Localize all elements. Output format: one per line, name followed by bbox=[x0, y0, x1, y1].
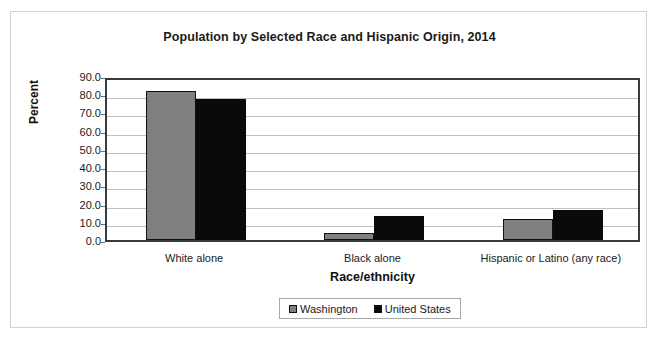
y-tick-label: 50.0 bbox=[59, 145, 101, 156]
y-tick-label: 90.0 bbox=[59, 72, 101, 83]
bar-washington[interactable] bbox=[324, 233, 374, 240]
bar-washington[interactable] bbox=[503, 219, 553, 240]
x-tick-label: White alone bbox=[105, 252, 283, 264]
chart-frame: Population by Selected Race and Hispanic… bbox=[10, 11, 647, 328]
legend-label: United States bbox=[385, 303, 451, 315]
chart-legend: WashingtonUnited States bbox=[279, 298, 461, 319]
plot-area bbox=[105, 78, 640, 242]
x-tick-label: Hispanic or Latino (any race) bbox=[462, 252, 640, 264]
x-tick-label: Black alone bbox=[283, 252, 461, 264]
y-tick-mark bbox=[101, 242, 105, 243]
legend-label: Washington bbox=[300, 303, 358, 315]
y-axis-ticks: 90.080.070.060.050.040.030.020.010.00.0 bbox=[51, 78, 101, 242]
black-square-icon bbox=[374, 305, 382, 313]
chart-title: Population by Selected Race and Hispanic… bbox=[11, 30, 648, 44]
bar-united-states[interactable] bbox=[196, 99, 246, 240]
bar-united-states[interactable] bbox=[553, 210, 603, 240]
y-axis-label: Percent bbox=[27, 80, 41, 124]
y-tick-label: 40.0 bbox=[59, 163, 101, 174]
y-tick-label: 20.0 bbox=[59, 200, 101, 211]
y-tick-label: 30.0 bbox=[59, 181, 101, 192]
bar-united-states[interactable] bbox=[374, 216, 424, 240]
bar-washington[interactable] bbox=[146, 91, 196, 240]
bar-group bbox=[464, 80, 642, 240]
x-axis-label: Race/ethnicity bbox=[105, 270, 640, 284]
legend-entry[interactable]: United States bbox=[374, 303, 451, 315]
bars-layer bbox=[107, 80, 638, 240]
y-tick-label: 60.0 bbox=[59, 127, 101, 138]
gray-square-icon bbox=[289, 305, 297, 313]
bar-group bbox=[107, 80, 285, 240]
y-tick-label: 80.0 bbox=[59, 90, 101, 101]
legend-entry[interactable]: Washington bbox=[289, 303, 358, 315]
y-tick-label: 10.0 bbox=[59, 218, 101, 229]
y-tick-label: 0.0 bbox=[59, 236, 101, 247]
bar-group bbox=[285, 80, 463, 240]
y-tick-label: 70.0 bbox=[59, 108, 101, 119]
x-axis-category-labels: White aloneBlack aloneHispanic or Latino… bbox=[105, 252, 640, 270]
